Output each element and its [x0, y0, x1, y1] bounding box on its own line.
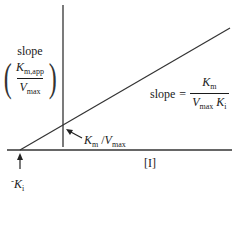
x-axis-label: [I]: [144, 157, 156, 169]
x-intercept-label: -Ki: [11, 177, 24, 193]
y-axis-fraction: Km,app Vmax: [14, 61, 46, 96]
left-paren: (: [3, 58, 11, 98]
slope-fraction: Km Vmax Ki: [190, 76, 228, 111]
right-paren: ): [49, 58, 57, 98]
x-intercept-arrow-icon: [17, 153, 23, 169]
y-axis-label: slope ( Km,app Vmax ): [0, 45, 60, 98]
y-intercept-arrow-icon: [66, 129, 82, 138]
slope-formula: slope = Km Vmax Ki: [150, 76, 229, 111]
y-intercept-label: Km /Vmax: [84, 134, 126, 149]
